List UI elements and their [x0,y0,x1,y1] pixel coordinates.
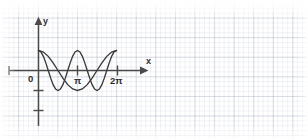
graph-figure: y x 0 π 2π [0,0,308,140]
x-axis-arrow-icon [140,67,149,75]
x-tick-label-2pi: 2π [110,76,123,86]
origin-label: 0 [28,74,33,84]
y-axis-arrow-icon [35,17,43,26]
x-tick-label-pi: π [74,76,81,86]
x-axis-label: x [146,57,151,66]
y-axis-label: y [43,17,48,26]
